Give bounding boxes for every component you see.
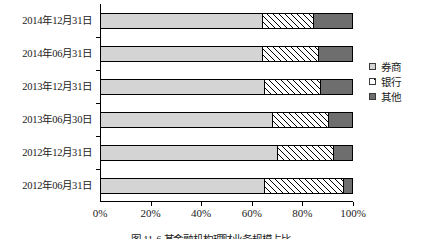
bar-segment-券商 [100,112,272,128]
bar-segment-银行 [264,178,342,194]
y-axis-label: 2014年06月31日 [22,46,92,62]
y-axis-tick [96,70,100,71]
legend-label: 银行 [381,74,401,89]
table-row [100,13,353,29]
y-axis-label: 2013年12月31日 [22,79,92,95]
x-axis-label: 80% [279,206,325,220]
y-axis-label: 2014年12月31日 [22,13,92,29]
legend-swatch-icon [369,63,376,70]
y-axis-tick [96,103,100,104]
table-row [100,145,353,161]
bar-segment-券商 [100,13,262,29]
figure-caption: 图 11-6 某金融机构理财业务规模占比 [0,231,422,239]
bar-segment-银行 [262,13,313,29]
y-axis-label: 2012年12月31日 [22,145,92,161]
stacked-bar-chart: 2014年12月31日2014年06月31日2013年12月31日2013年06… [0,0,422,239]
bar-segment-其他 [328,112,353,128]
y-axis-labels: 2014年12月31日2014年06月31日2013年12月31日2013年06… [0,4,98,202]
bar-segment-券商 [100,178,264,194]
x-axis-label: 100% [330,206,376,220]
chart-legend: 券商银行其他 [369,59,419,104]
bar-segment-券商 [100,46,262,62]
y-axis-tick [96,37,100,38]
bar-segment-银行 [272,112,328,128]
legend-item[interactable]: 券商 [369,59,419,74]
legend-item[interactable]: 其他 [369,89,419,104]
bar-segment-银行 [277,145,333,161]
legend-item[interactable]: 银行 [369,74,419,89]
bar-segment-其他 [320,79,353,95]
x-axis-label: 40% [178,206,224,220]
bar-segment-银行 [264,79,320,95]
x-axis-label: 0% [77,206,123,220]
bar-segment-其他 [318,46,353,62]
legend-label: 其他 [381,89,401,104]
legend-swatch-icon [369,78,376,85]
bar-segment-券商 [100,79,264,95]
y-axis-tick [96,169,100,170]
legend-label: 券商 [381,59,401,74]
table-row [100,46,353,62]
bar-segment-券商 [100,145,277,161]
y-axis-label: 2012年06月31日 [22,178,92,194]
y-axis-tick [96,136,100,137]
bar-segment-其他 [343,178,353,194]
bar-segment-其他 [313,13,353,29]
x-axis-label: 60% [229,206,275,220]
legend-swatch-icon [369,93,376,100]
table-row [100,112,353,128]
y-axis-label: 2013年06月30日 [22,112,92,128]
bar-segment-银行 [262,46,318,62]
x-axis-label: 20% [128,206,174,220]
table-row [100,178,353,194]
bar-segment-其他 [333,145,353,161]
table-row [100,79,353,95]
bar-rows [100,4,353,202]
